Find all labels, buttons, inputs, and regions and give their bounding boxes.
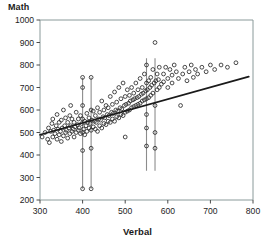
- data-point: [123, 95, 127, 99]
- x-tick-label: 400: [75, 206, 90, 216]
- data-point: [93, 114, 97, 118]
- data-point: [172, 63, 176, 67]
- data-point: [196, 72, 200, 76]
- data-point: [134, 81, 138, 85]
- reference-lines: [83, 58, 155, 189]
- data-point: [213, 68, 217, 72]
- data-point: [119, 97, 123, 101]
- y-tick-label: 400: [20, 150, 35, 160]
- x-tick-label: 300: [33, 206, 48, 216]
- y-tick-label: 200: [20, 195, 35, 205]
- data-point: [98, 110, 102, 114]
- x-tick-label: 600: [161, 206, 176, 216]
- data-point: [136, 88, 140, 92]
- data-point: [53, 132, 57, 136]
- data-point: [155, 72, 159, 76]
- x-tick-label: 800: [246, 206, 261, 216]
- plot-canvas: 2003004005006007008009001000 30040050060…: [0, 0, 275, 247]
- data-point: [50, 122, 54, 126]
- scatter-plot-figure: Math Verbal 2003004005006007008009001000…: [0, 0, 275, 247]
- data-point: [226, 65, 230, 69]
- data-point: [69, 104, 73, 108]
- x-tick-label: 500: [118, 206, 133, 216]
- data-point: [166, 77, 170, 81]
- data-point: [96, 106, 100, 110]
- data-point: [170, 81, 174, 85]
- data-point: [183, 65, 187, 69]
- data-point: [85, 111, 89, 115]
- data-point: [166, 86, 170, 90]
- data-point: [168, 68, 172, 72]
- data-point: [191, 75, 195, 79]
- data-point: [219, 63, 223, 67]
- y-tick-label: 700: [20, 83, 35, 93]
- data-point: [130, 86, 134, 90]
- y-axis-ticks: 2003004005006007008009001000: [15, 15, 40, 205]
- y-tick-label: 900: [20, 38, 35, 48]
- data-point: [151, 68, 155, 72]
- x-tick-label: 700: [203, 206, 218, 216]
- data-point: [179, 104, 183, 108]
- data-point: [55, 113, 59, 117]
- data-point: [66, 136, 70, 140]
- data-point: [121, 81, 125, 85]
- data-point: [189, 63, 193, 67]
- data-point: [187, 70, 191, 74]
- data-point: [177, 77, 181, 81]
- data-point: [138, 77, 142, 81]
- y-tick-label: 300: [20, 173, 35, 183]
- data-point: [204, 70, 208, 74]
- data-point: [55, 137, 59, 141]
- data-point: [170, 73, 174, 77]
- data-point: [162, 72, 166, 76]
- data-point: [117, 86, 121, 90]
- data-point: [142, 72, 146, 76]
- data-point: [200, 65, 204, 69]
- y-tick-label: 800: [20, 60, 35, 70]
- x-axis-ticks: 300400500600700800: [33, 200, 261, 216]
- data-point: [66, 120, 70, 124]
- data-point: [128, 93, 132, 97]
- data-point: [149, 75, 153, 79]
- data-point: [102, 108, 106, 112]
- data-point: [140, 86, 144, 90]
- y-tick-label: 500: [20, 128, 35, 138]
- data-point: [40, 135, 44, 139]
- data-point: [111, 102, 115, 106]
- y-tick-label: 1000: [15, 15, 34, 25]
- data-point: [59, 140, 63, 144]
- data-point: [74, 110, 78, 114]
- data-point: [164, 65, 168, 69]
- data-point: [185, 79, 189, 83]
- data-point: [62, 108, 66, 112]
- data-point: [174, 70, 178, 74]
- data-point: [194, 68, 198, 72]
- data-points: [40, 41, 238, 191]
- data-point: [153, 41, 157, 45]
- data-point: [125, 88, 129, 92]
- data-point: [108, 95, 112, 99]
- y-tick-label: 600: [20, 105, 35, 115]
- data-point: [72, 135, 76, 139]
- data-point: [100, 99, 104, 103]
- data-point: [132, 91, 136, 95]
- data-point: [115, 100, 119, 104]
- data-point: [181, 72, 185, 76]
- data-point: [157, 65, 161, 69]
- trend-line: [40, 77, 249, 135]
- regression-line: [40, 77, 249, 135]
- data-point: [64, 116, 68, 120]
- data-point: [123, 135, 127, 139]
- data-point: [51, 117, 55, 121]
- data-point: [234, 61, 238, 65]
- data-point: [47, 141, 51, 145]
- data-point: [113, 90, 117, 94]
- data-point: [209, 63, 213, 67]
